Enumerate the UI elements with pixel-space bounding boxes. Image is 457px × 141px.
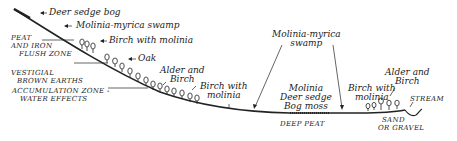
label-molinia-myrica-swamp-slope: Molinia-myrica swamp — [76, 21, 180, 30]
stream-channel — [405, 109, 422, 116]
label-alder-and-birch-right: Alder and Birch — [385, 68, 430, 86]
label-line: molinia — [348, 93, 396, 102]
label-line: BROWN EARTHS — [11, 77, 83, 85]
label-line: swamp — [272, 39, 341, 48]
label-line: Birch — [160, 75, 205, 84]
label-peat-iron-flush-zone: PEAT AND IRON FLUSH ZONE — [11, 34, 72, 58]
slope-profile-diagram: Deer sedge bog Molinia-myrica swamp Birc… — [0, 0, 457, 141]
label-line: ACCUMULATION ZONE - — [12, 87, 110, 95]
label-deep-peat: DEEP PEAT — [280, 121, 325, 128]
label-line: Birch — [385, 77, 430, 86]
label-line: OR GRAVEL — [378, 124, 424, 132]
label-alder-and-birch-slope: Alder and Birch — [160, 66, 205, 84]
label-stream: STREAM — [410, 96, 444, 103]
label-line: SAND — [378, 116, 424, 124]
label-line: WATER EFFECTS — [12, 95, 110, 103]
label-birch-with-molinia-right: Birch with molinia — [348, 84, 396, 102]
label-birch-with-molinia-slope: Birch with molinia — [109, 36, 193, 45]
label-vestigial-brown-earths: VESTIGIAL BROWN EARTHS — [11, 69, 83, 85]
label-molinia-myrica-swamp-valley: Molinia-myrica swamp — [272, 30, 341, 48]
label-line: FLUSH ZONE — [11, 50, 72, 58]
label-sand-or-gravel: SAND OR GRAVEL — [378, 116, 424, 132]
label-birch-with-molinia-foot: Birch with molinia — [200, 82, 248, 100]
label-line: AND IRON — [11, 42, 72, 50]
label-deer-sedge-bog: Deer sedge bog — [49, 8, 121, 17]
label-line: molinia — [200, 91, 248, 100]
label-line: VESTIGIAL — [11, 69, 83, 77]
label-line: PEAT — [11, 34, 72, 42]
label-line: Bog moss — [280, 102, 332, 111]
label-valley-vegetation: Molinia Deer sedge Bog moss — [280, 84, 332, 111]
label-oak: Oak — [138, 54, 156, 63]
label-accumulation-zone: ACCUMULATION ZONE - WATER EFFECTS — [12, 87, 110, 103]
